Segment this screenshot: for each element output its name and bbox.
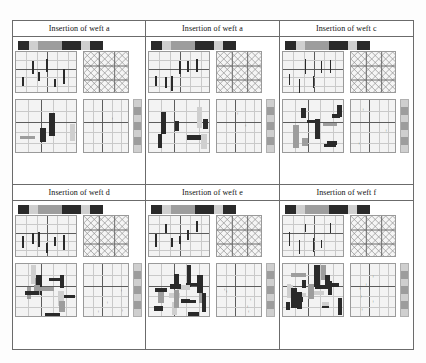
weft-sequence-strip <box>266 263 275 317</box>
strip-segment <box>134 286 141 293</box>
weft-block <box>20 136 35 139</box>
strip-segment <box>134 107 141 114</box>
strip-segment <box>401 115 408 122</box>
strip-segment <box>401 100 408 107</box>
weft-colorbar <box>151 205 243 214</box>
weft-block <box>291 273 306 277</box>
weft-colorbar <box>151 41 243 50</box>
colorbar-segment <box>29 205 38 214</box>
strip-segment <box>134 294 141 301</box>
warp-tick <box>321 240 323 248</box>
warp-tick <box>187 61 189 72</box>
colorbar-segment <box>285 41 296 50</box>
interlacing-lattice <box>350 215 396 257</box>
pick-marker: + <box>358 141 361 146</box>
point-paper-grid: + <box>83 99 129 153</box>
pick-marker: + <box>106 300 109 305</box>
colorbar-segment <box>296 205 305 214</box>
strip-segment <box>267 286 274 293</box>
fabric-cross-section-grid <box>15 99 77 153</box>
pick-marker: + <box>385 128 388 133</box>
weft-sequence-strip <box>133 263 142 317</box>
colorbar-segment <box>38 205 62 214</box>
pick-marker: + <box>361 307 364 312</box>
weft-block <box>154 306 163 311</box>
weft-block <box>45 313 60 316</box>
weft-colorbar <box>285 205 377 214</box>
weft-block <box>202 293 206 312</box>
warp-plan-grid <box>282 215 344 257</box>
colorbar-segment <box>335 205 348 214</box>
weft-block <box>184 300 196 303</box>
warp-tick <box>305 59 307 74</box>
cell-weft-c: Insertion of weft c+++ <box>280 21 413 185</box>
strip-segment <box>267 107 274 114</box>
weft-block <box>291 288 297 308</box>
weft-block <box>323 123 337 126</box>
warp-tick <box>155 234 157 247</box>
warp-plan-grid <box>15 215 77 257</box>
pick-marker: + <box>244 123 247 128</box>
strip-segment <box>401 122 408 129</box>
interlacing-lattice <box>83 215 129 257</box>
fabric-cross-section-grid <box>148 99 210 153</box>
colorbar-segment <box>151 41 162 50</box>
strip-segment <box>134 279 141 286</box>
warp-tick <box>165 77 167 88</box>
point-paper-grid: +++ <box>350 99 396 153</box>
strip-segment <box>401 286 408 293</box>
colorbar-segment <box>214 205 223 214</box>
strip-segment <box>267 271 274 278</box>
cell-weft-f: Insertion of weft f++++++ <box>280 185 413 349</box>
weft-block <box>314 265 320 287</box>
colorbar-segment <box>348 205 357 214</box>
colorbar-segment <box>285 205 296 214</box>
weft-block <box>302 280 306 288</box>
warp-tick <box>179 61 181 74</box>
cell-body: +++++ <box>146 201 278 349</box>
warp-tick <box>38 232 40 247</box>
colorbar-segment <box>335 41 348 50</box>
strip-segment <box>267 294 274 301</box>
weft-sequence-strip <box>266 99 275 153</box>
weft-block <box>49 113 55 136</box>
interlacing-lattice <box>83 51 129 93</box>
weft-block <box>64 295 75 298</box>
weft-block <box>301 108 306 118</box>
warp-plan-grid <box>282 51 344 93</box>
colorbar-segment <box>296 41 305 50</box>
weft-colorbar <box>18 41 110 50</box>
weft-block <box>187 265 191 287</box>
warp-tick <box>196 59 198 72</box>
weft-block <box>175 121 179 131</box>
interlacing-lattice <box>350 51 396 93</box>
pick-marker: + <box>365 282 368 287</box>
weft-block <box>170 284 181 289</box>
weft-block <box>197 275 203 293</box>
weft-sequence-strip <box>400 99 409 153</box>
weft-block <box>201 134 207 149</box>
warp-plan-grid <box>148 215 210 257</box>
cell-weft-a-1: Insertion of weft a+ <box>13 21 146 185</box>
cell-body: ++ <box>146 37 278 184</box>
warp-tick <box>289 232 291 246</box>
pick-marker: + <box>247 309 250 314</box>
warp-tick <box>171 76 173 91</box>
cell-title: Insertion of weft e <box>146 185 278 201</box>
weft-block <box>322 302 329 306</box>
weft-colorbar <box>285 41 377 50</box>
strip-segment <box>134 137 141 144</box>
warp-tick <box>313 76 315 88</box>
weft-block <box>331 283 339 287</box>
colorbar-segment <box>151 205 162 214</box>
colorbar-segment <box>162 41 171 50</box>
colorbar-segment <box>68 205 81 214</box>
weft-block <box>40 128 46 142</box>
colorbar-segment <box>81 41 90 50</box>
strip-segment <box>267 309 274 316</box>
strip-segment <box>267 115 274 122</box>
pick-marker: + <box>223 287 226 292</box>
colorbar-segment <box>201 41 214 50</box>
colorbar-segment <box>357 205 370 214</box>
strip-segment <box>134 301 141 308</box>
